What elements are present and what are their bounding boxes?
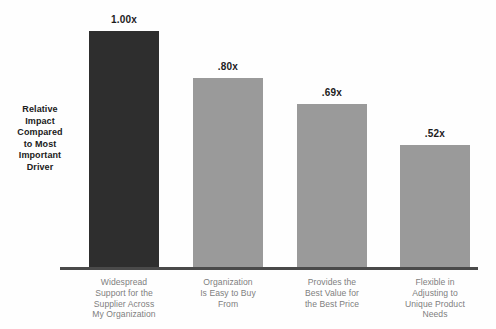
category-label-2: Provides theBest Value forthe Best Price [280,277,384,309]
category-label-line: Is Easy to Buy [176,288,280,299]
bar-value-2: .69x [280,87,384,98]
bar-0[interactable] [89,31,159,268]
bar-value-1: .80x [176,61,280,72]
bar-value-3: .52x [383,128,487,139]
category-label-line: Supplier Across [72,299,176,310]
category-label-line: Widespread [72,277,176,288]
category-label-line: Unique Product [383,299,487,310]
category-label-3: Flexible inAdjusting toUnique ProductNee… [383,277,487,320]
bar-chart: Relative Impact Compared to Most Importa… [0,0,496,329]
bar-value-0: 1.00x [72,14,176,25]
category-label-1: OrganizationIs Easy to BuyFrom [176,277,280,309]
bar-1[interactable] [193,78,263,268]
category-label-line: Organization [176,277,280,288]
category-label-line: From [176,299,280,310]
category-label-line: Needs [383,309,487,320]
bar-group-0: 1.00x [72,8,176,268]
category-label-line: Adjusting to [383,288,487,299]
x-axis-line [60,267,478,270]
bar-group-1: .80x [176,8,280,268]
plot-area: 1.00x .80x .69x .52x [60,8,478,268]
category-label-line: My Organization [72,309,176,320]
category-label-line: Provides the [280,277,384,288]
category-label-line: Flexible in [383,277,487,288]
bar-3[interactable] [400,145,470,268]
bar-2[interactable] [297,104,367,268]
bar-group-3: .52x [383,8,487,268]
category-label-line: Best Value for [280,288,384,299]
category-label-line: Support for the [72,288,176,299]
x-axis-categories: WidespreadSupport for theSupplier Across… [60,277,478,327]
category-label-line: the Best Price [280,299,384,310]
bar-group-2: .69x [280,8,384,268]
category-label-0: WidespreadSupport for theSupplier Across… [72,277,176,320]
